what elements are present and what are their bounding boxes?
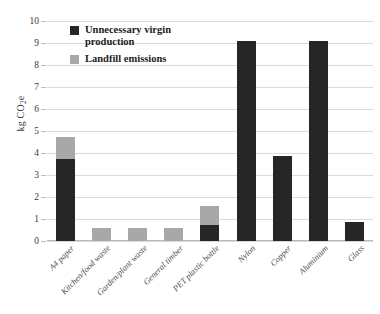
bar-segment-virgin	[345, 222, 364, 241]
y-axis-tick-label: 10	[13, 16, 39, 26]
x-axis-tick-labels: A4 paperKitchen/food wasteGarden/plant w…	[47, 243, 373, 314]
bar-stack	[345, 222, 364, 241]
chart-legend: Unnecessary virgin production Landfill e…	[70, 24, 203, 65]
y-axis-tick-label: 6	[13, 104, 39, 114]
bar-stack	[309, 41, 328, 241]
bar-segment-virgin	[237, 41, 256, 241]
bar-stack	[128, 228, 147, 241]
y-axis-tick-mark	[41, 219, 46, 220]
bar-segment-virgin	[273, 156, 292, 241]
legend-item-landfill: Landfill emissions	[70, 53, 203, 65]
y-axis-tick-mark	[41, 131, 46, 132]
y-axis-tick-label: 1	[13, 214, 39, 224]
x-axis-tick-label: Nylon	[236, 243, 257, 264]
y-axis-tick-mark	[41, 197, 46, 198]
y-axis-tick-label: 5	[13, 126, 39, 136]
y-axis-tick-mark	[41, 175, 46, 176]
bar-segment-landfill	[128, 228, 147, 241]
x-axis-tick-label: Glass	[345, 243, 366, 264]
bar-segment-virgin	[200, 225, 219, 242]
x-axis-tick-label: A4 paper	[47, 243, 76, 272]
bar-segment-landfill	[200, 206, 219, 225]
y-axis-tick-label: 4	[13, 148, 39, 158]
bar-segment-virgin	[309, 41, 328, 241]
y-axis-tick-label: 8	[13, 60, 39, 70]
bar-stack	[164, 228, 183, 241]
y-axis-tick-label: 0	[13, 236, 39, 246]
y-axis-tick-mark	[41, 153, 46, 154]
bar-segment-landfill	[92, 228, 111, 241]
y-axis-tick-label: 9	[13, 38, 39, 48]
bar-segment-virgin	[56, 159, 75, 242]
legend-item-virgin: Unnecessary virgin production	[70, 24, 203, 48]
bar-stack	[237, 41, 256, 241]
legend-swatch-icon	[70, 55, 79, 64]
legend-swatch-icon	[70, 26, 79, 35]
y-axis-tick-mark	[41, 241, 46, 242]
y-axis-tick-label: 3	[13, 170, 39, 180]
y-axis-tick-mark	[41, 65, 46, 66]
bar-slot	[228, 21, 264, 241]
bar-stack	[273, 156, 292, 241]
gridline	[47, 241, 373, 242]
y-axis-tick-label: 2	[13, 192, 39, 202]
bar-slot	[264, 21, 300, 241]
bar-stack	[200, 206, 219, 241]
y-axis-tick-mark	[41, 87, 46, 88]
stacked-bar-chart: kg CO2e 012345678910 A4 paperKitchen/foo…	[0, 0, 380, 314]
legend-label: Unnecessary virgin production	[85, 24, 203, 48]
bar-slot	[337, 21, 373, 241]
bar-stack	[92, 228, 111, 241]
bar-slot	[301, 21, 337, 241]
bar-segment-landfill	[164, 228, 183, 241]
y-axis-tick-mark	[41, 21, 46, 22]
y-axis-tick-label: 7	[13, 82, 39, 92]
x-axis-tick-label: Aluminium	[296, 243, 329, 276]
x-axis-tick-label: Copper	[268, 243, 293, 268]
y-axis-tick-mark	[41, 43, 46, 44]
legend-label: Landfill emissions	[85, 53, 166, 65]
bar-stack	[56, 137, 75, 242]
bar-segment-landfill	[56, 137, 75, 159]
y-axis-tick-mark	[41, 109, 46, 110]
